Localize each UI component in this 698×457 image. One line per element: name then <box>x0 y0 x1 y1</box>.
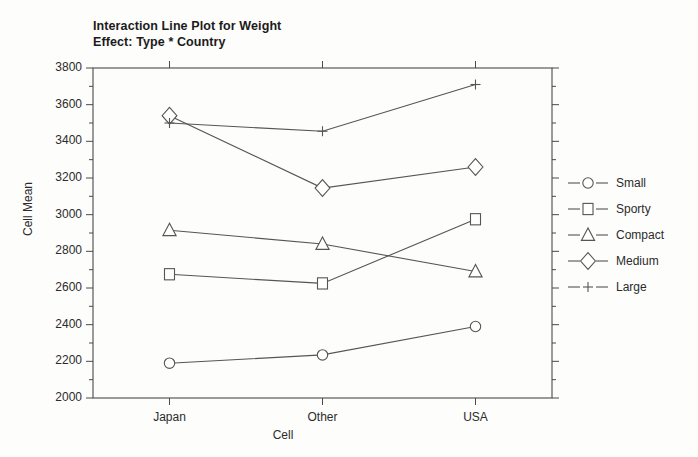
y-tick-label: 3600 <box>36 97 82 111</box>
triangle-marker <box>566 225 610 245</box>
diamond-marker <box>315 180 330 197</box>
diamond-marker <box>468 159 483 176</box>
x-tick-label: USA <box>431 410 521 424</box>
y-tick-label: 3400 <box>36 133 82 147</box>
square-marker <box>471 214 481 225</box>
circle-marker <box>566 173 610 193</box>
y-tick-label: 2000 <box>36 390 82 404</box>
y-tick-label: 3800 <box>36 60 82 74</box>
legend-item-medium[interactable]: Medium <box>566 248 664 274</box>
y-tick-label: 3200 <box>36 170 82 184</box>
legend-label: Sporty <box>610 202 651 216</box>
series-small <box>164 321 480 368</box>
series-compact <box>163 223 482 277</box>
diamond-marker <box>566 251 610 271</box>
series-medium <box>162 107 483 196</box>
y-tick-label: 2800 <box>36 243 82 257</box>
legend-label: Compact <box>610 228 664 242</box>
circle-marker <box>583 178 593 188</box>
legend-label: Medium <box>610 254 659 268</box>
square-marker <box>583 203 593 214</box>
circle-marker <box>164 358 174 368</box>
x-tick-label: Other <box>278 410 368 424</box>
triangle-marker <box>581 228 594 240</box>
square-marker <box>566 199 610 219</box>
triangle-marker <box>163 223 176 235</box>
y-tick-label: 3000 <box>36 207 82 221</box>
legend-label: Small <box>610 176 646 190</box>
chart-legend: SmallSportyCompactMediumLarge <box>566 170 664 300</box>
y-tick-label: 2200 <box>36 353 82 367</box>
y-tick-label: 2400 <box>36 317 82 331</box>
y-tick-label: 2600 <box>36 280 82 294</box>
legend-item-large[interactable]: Large <box>566 274 664 300</box>
legend-item-sporty[interactable]: Sporty <box>566 196 664 222</box>
series-sporty <box>165 214 481 289</box>
series-line <box>170 219 476 283</box>
plus-marker <box>566 277 610 297</box>
square-marker <box>318 278 328 289</box>
legend-item-small[interactable]: Small <box>566 170 664 196</box>
circle-marker <box>317 350 327 360</box>
circle-marker <box>470 321 480 331</box>
chart-page: Interaction Line Plot for Weight Effect:… <box>0 0 698 457</box>
series-line <box>170 85 476 132</box>
diamond-marker <box>581 253 596 270</box>
legend-label: Large <box>610 280 647 294</box>
x-tick-label: Japan <box>125 410 215 424</box>
square-marker <box>165 269 175 280</box>
legend-item-compact[interactable]: Compact <box>566 222 664 248</box>
series-large <box>165 80 481 137</box>
plot-frame <box>93 68 552 398</box>
